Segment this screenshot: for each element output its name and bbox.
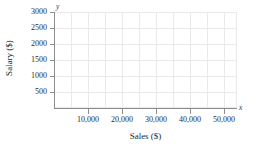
plot-area (54, 12, 237, 108)
x-axis-tick (224, 109, 225, 114)
horizontal-gridline (54, 60, 237, 61)
y-axis-title: Salary ($) (4, 18, 14, 98)
horizontal-gridline (54, 28, 237, 29)
y-axis-tick-label: 500 (35, 88, 47, 96)
y-axis-tick-label: 1500 (31, 56, 47, 64)
horizontal-gridline (54, 92, 237, 93)
y-axis-tick (50, 76, 55, 77)
y-axis-tick (50, 60, 55, 61)
x-axis-letter: x (239, 104, 242, 112)
x-axis-title: Sales ($) (54, 131, 237, 141)
y-axis-tick-label: 1000 (31, 72, 47, 80)
y-axis-letter: y (56, 3, 59, 11)
y-axis-tick (50, 12, 55, 13)
chart-figure: y x 3000 2500 2000 1500 1000 500 10,000 … (0, 0, 257, 154)
horizontal-gridline (54, 12, 237, 13)
x-axis-line (54, 108, 237, 109)
x-axis-tick-label: 50,000 (204, 116, 244, 124)
y-axis-tick (50, 92, 55, 93)
y-axis-tick (50, 28, 55, 29)
x-axis-tick (190, 109, 191, 114)
x-axis-tick (88, 109, 89, 114)
x-axis-tick (122, 109, 123, 114)
y-axis-tick-label: 2500 (31, 24, 47, 32)
y-axis-tick-label: 3000 (31, 8, 47, 16)
y-axis-tick-label: 2000 (31, 40, 47, 48)
horizontal-gridline (54, 44, 237, 45)
y-axis-tick (50, 44, 55, 45)
horizontal-gridline (54, 76, 237, 77)
x-axis-tick (156, 109, 157, 114)
